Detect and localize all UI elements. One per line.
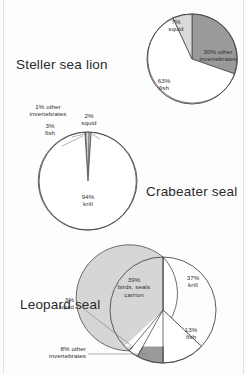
label-leopard-krill: 37% krill [178,274,208,289]
label-crabeater-krill: 94% krill [73,193,103,208]
chart-title-crabeater-seal: Crabeater seal [146,184,237,199]
pie-crabeater-seal [38,132,137,230]
label-leopard-squid: 3% squid [36,296,74,311]
label-leopard-fish: 13% fish [177,326,205,341]
label-leopard-other-invertebrates: 8% other invertebrates [12,345,86,360]
pie-chart-figure: Steller sea lion Crabeater seal Leopard … [0,0,247,374]
chart-title-steller-sea-lion: Steller sea lion [16,57,108,72]
label-crabeater-other-invertebrates: 1% other invertebrates [23,103,73,118]
label-crabeater-squid: 2% squid [75,112,103,127]
label-steller-fish: 63% fish [150,77,178,92]
label-crabeater-fish: 3% fish [38,122,62,137]
label-steller-squid: 7% squid [159,18,193,33]
label-leopard-birds-seals-carrion: 39% birds, seals carrion [108,276,160,298]
label-steller-other-invertebrates: 30% other invertebrates [194,48,242,63]
